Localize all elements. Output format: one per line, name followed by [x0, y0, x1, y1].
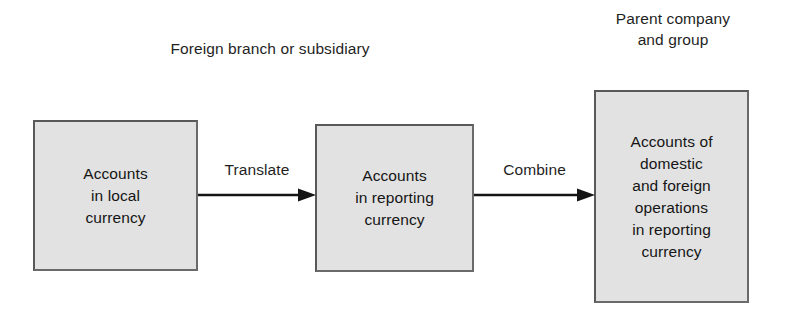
- box-accounts-in-local-currency: Accounts in local currency: [33, 120, 198, 271]
- caption-foreign-branch: Foreign branch or subsidiary: [60, 38, 480, 59]
- box-label-combined: Accounts of domestic and foreign operati…: [630, 131, 712, 263]
- box-label-reporting: Accounts in reporting currency: [355, 165, 434, 231]
- arrow-label-combine: Combine: [474, 160, 595, 180]
- arrow-translate-group: Translate: [198, 160, 316, 205]
- box-accounts-of-domestic-and-foreign-operations: Accounts of domestic and foreign operati…: [594, 90, 749, 303]
- arrow-label-translate: Translate: [198, 160, 316, 180]
- arrow-right-icon: [198, 186, 316, 204]
- box-label-local: Accounts in local currency: [83, 163, 148, 229]
- arrow-combine-group: Combine: [474, 160, 595, 205]
- arrow-right-icon: [474, 186, 595, 204]
- box-accounts-in-reporting-currency: Accounts in reporting currency: [315, 124, 474, 272]
- caption-parent-company: Parent company and group: [578, 8, 768, 50]
